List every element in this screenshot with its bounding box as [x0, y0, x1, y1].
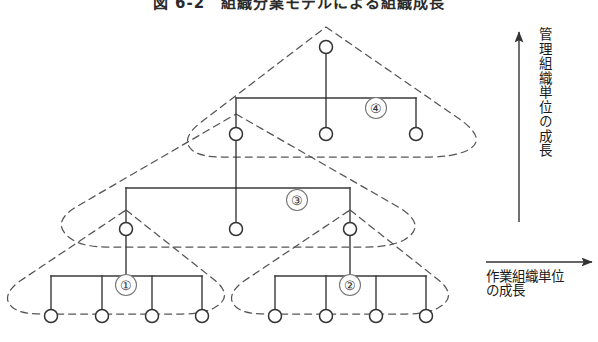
grouping-envelopes — [8, 27, 477, 314]
node-c3 — [146, 310, 159, 323]
node-a2 — [320, 128, 333, 141]
group-label-2-text: ② — [344, 278, 356, 293]
node-a1 — [230, 128, 243, 141]
node-b2 — [230, 223, 243, 236]
node-root — [320, 41, 333, 54]
group-label-1-text: ① — [120, 278, 132, 293]
group-labels: ① ② ③ ④ — [116, 98, 387, 296]
node-b3 — [344, 223, 357, 236]
group-label-1: ① — [116, 275, 137, 296]
node-d1 — [269, 310, 282, 323]
node-c2 — [96, 310, 109, 323]
horizontal-axis-label: 作業組織単位 の成長 — [486, 269, 598, 298]
figure-container: 図 6-2 組織分業モデルによる組織成長 — [0, 0, 598, 342]
node-c1 — [45, 310, 58, 323]
tree-edges — [51, 54, 426, 310]
vertical-axis-label: 管理組織単位の成長 — [532, 27, 552, 158]
node-a3 — [410, 128, 423, 141]
node-d4 — [420, 310, 433, 323]
horizontal-axis-label-line2: の成長 — [486, 283, 598, 297]
group-label-4: ④ — [366, 98, 387, 119]
group-label-3-text: ③ — [291, 193, 303, 208]
group-label-4-text: ④ — [370, 101, 382, 116]
node-c4 — [196, 310, 209, 323]
group-label-3: ③ — [287, 190, 308, 211]
node-d3 — [370, 310, 383, 323]
group-label-2: ② — [340, 275, 361, 296]
node-d2 — [320, 310, 333, 323]
envelope-1 — [8, 210, 225, 314]
node-b1 — [120, 223, 133, 236]
envelope-2 — [232, 210, 449, 314]
